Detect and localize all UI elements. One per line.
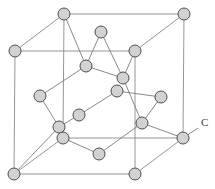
- bond-line: [64, 14, 86, 66]
- atom-circle: [95, 26, 107, 38]
- bond-line: [142, 123, 183, 138]
- atom-circle: [129, 45, 141, 57]
- bond-line: [14, 127, 59, 174]
- carbon-label: C: [201, 116, 208, 128]
- atom-circle: [57, 132, 69, 144]
- atom-circle: [177, 132, 189, 144]
- diamond-crystal-diagram: C: [0, 0, 215, 189]
- cube-edge: [63, 14, 64, 138]
- cube-edge: [14, 138, 63, 174]
- atom-circle: [155, 91, 167, 103]
- atom-circle: [53, 121, 65, 133]
- cube-edge: [135, 14, 184, 51]
- atom-circle: [58, 8, 70, 20]
- bond-line: [117, 91, 161, 97]
- atom-circle: [9, 45, 21, 57]
- bond-line: [79, 91, 117, 115]
- atom-circle: [80, 60, 92, 72]
- atom-circle: [178, 8, 190, 20]
- atom-circle: [34, 90, 46, 102]
- bond-line: [99, 123, 142, 154]
- cube-edge: [15, 14, 64, 51]
- atom-circle: [93, 148, 105, 160]
- bond-line: [101, 32, 123, 78]
- cube-edge: [183, 14, 184, 138]
- atom-circle: [136, 117, 148, 129]
- cube-edge: [14, 51, 15, 174]
- atom-circle: [111, 85, 123, 97]
- atoms: [8, 8, 190, 180]
- bond-line: [123, 78, 142, 123]
- atom-circle: [117, 72, 129, 84]
- atom-circle: [8, 168, 20, 180]
- atom-circle: [129, 168, 141, 180]
- cube-edge: [135, 138, 183, 174]
- atom-circle: [73, 109, 85, 121]
